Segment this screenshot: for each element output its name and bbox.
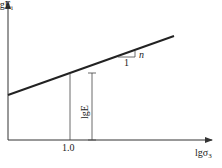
diagram-canvas: lgEi lgσ3 1.0 lgE 1 n	[0, 0, 222, 168]
x-axis-label: lgσ3	[195, 147, 212, 160]
regression-line	[8, 36, 174, 95]
slope-run-label: 1	[124, 57, 129, 68]
slope-rise-label: n	[139, 49, 144, 60]
y-axis-label: lgEi	[0, 0, 13, 12]
x-tick-label: 1.0	[62, 142, 75, 153]
intercept-label: lgE	[79, 105, 90, 119]
